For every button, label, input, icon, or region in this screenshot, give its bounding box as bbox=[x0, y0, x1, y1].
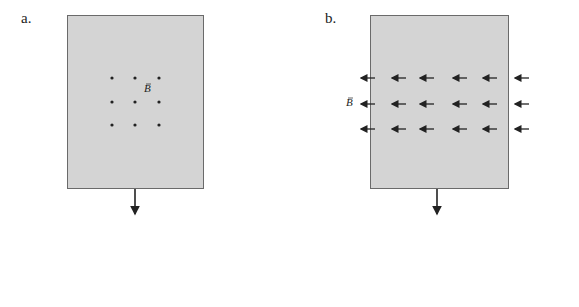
figure: a. B b. B bbox=[0, 0, 579, 307]
field-dots bbox=[110, 76, 160, 126]
field-arrows bbox=[361, 78, 529, 129]
diagram-graphics bbox=[0, 0, 579, 307]
